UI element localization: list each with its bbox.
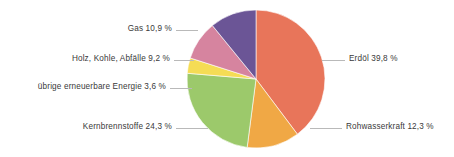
pie-label-kernbrennstoffe: Kernbrennstoffe 24,3 % [83, 123, 172, 131]
pie-chart-canvas [0, 0, 454, 157]
leader-line-rohwasserkraft [310, 128, 342, 129]
leader-line-erdoel [322, 60, 345, 61]
pie-slice-kernbrennstoffe[interactable] [187, 73, 256, 147]
pie-chart-figure: Gas 10,9 % Holz, Kohle, Abfälle 9,2 % üb… [0, 0, 454, 157]
pie-label-uebrige-erneuerbare-energie: übrige erneuerbare Energie 3,6 % [38, 83, 166, 91]
leader-line-uebrige-erneuerbare [170, 88, 192, 89]
pie-label-gas: Gas 10,9 % [128, 25, 172, 33]
pie-label-erdoel: Erdöl 39,8 % [349, 55, 398, 63]
pie-label-rohwasserkraft: Rohwasserkraft 12,3 % [346, 123, 434, 131]
leader-line-holz-kohle-abfaelle [174, 60, 194, 61]
leader-line-kernbrennstoffe [176, 128, 208, 129]
pie-label-holz-kohle-abfaelle: Holz, Kohle, Abfälle 9,2 % [72, 55, 170, 63]
leader-line-gas [176, 30, 198, 31]
